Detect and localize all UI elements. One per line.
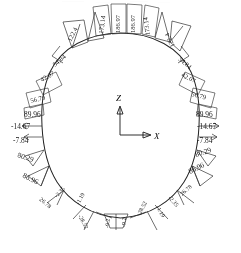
label-lower-c-right: -1.19: [155, 205, 166, 219]
label-side-d-left: 80.29: [16, 150, 35, 164]
label-lower-d-left: -28.52: [77, 214, 89, 230]
label-side-e-right: 86.96: [187, 160, 206, 176]
label-top-inner-right: 173.14: [141, 16, 151, 36]
label-bottom-center-left: -9.2: [104, 218, 111, 228]
vector-lower-d-right: [147, 211, 157, 230]
label-side-e-left: 86.96: [21, 171, 40, 187]
label-top-inner-left: 173.14: [97, 15, 107, 35]
axis-label-x: X: [153, 131, 160, 141]
label-shoulder-c-left: 56.79: [30, 93, 47, 104]
label-lower-c-left: -1.19: [75, 192, 86, 206]
label-shoulder-b-left: 42.07: [39, 69, 56, 83]
label-shoulder-c-right: 56.79: [191, 90, 208, 101]
label-side-c-right: -7.84: [197, 136, 213, 145]
label-side-b-left: -14.67: [11, 122, 30, 131]
label-side-c-left: -7.84: [13, 136, 29, 145]
label-side-a-right: 89.96: [196, 110, 213, 119]
label-side-a-left: 89.96: [24, 110, 41, 119]
scan-artifacts: [62, 1, 170, 3]
label-top-outer-right: 122.4: [163, 31, 176, 48]
axis-label-z: Z: [116, 93, 122, 103]
label-shoulder-a-right: 54.84: [177, 55, 193, 70]
section-outline: [42, 33, 200, 218]
label-top-center-left: 186.97: [114, 14, 121, 33]
label-bottom-center-right: -9.2: [121, 218, 127, 227]
cross-section-diagram: 122.4 173.14 186.97 186.97 173.14 122.4 …: [0, 0, 241, 253]
label-lower-d-right: -28.52: [136, 200, 148, 216]
coordinate-axes: [117, 106, 151, 138]
label-top-center-right: 186.97: [129, 14, 136, 33]
label-lower-a-right: 26.78: [179, 184, 193, 197]
label-side-b-right: -14.67: [197, 122, 216, 131]
label-shoulder-a-left: 54.84: [51, 52, 67, 67]
label-lower-b-right: -2.35: [167, 195, 180, 208]
label-lower-a-left: 26.78: [38, 196, 52, 209]
figure-root: 122.4 173.14 186.97 186.97 173.14 122.4 …: [0, 0, 241, 253]
